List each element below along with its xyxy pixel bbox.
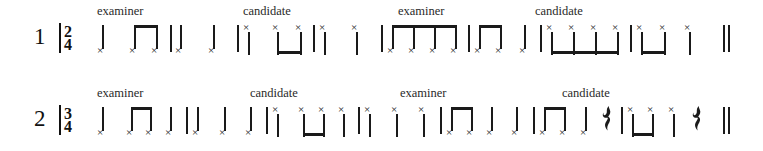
notehead-x-icon: × [495,45,501,56]
notehead-x-icon: × [126,127,132,138]
beam [277,51,302,54]
notehead-x-icon: × [519,45,525,56]
label-examiner-3: examiner [97,86,144,101]
time-signature-1: 2 4 [59,21,72,55]
notehead-x-icon: × [192,127,198,138]
barline [540,25,542,52]
barline [266,107,268,134]
beam [641,51,666,54]
label-examiner-4: examiner [400,86,447,101]
beam [134,25,158,28]
notehead-x-icon: × [486,127,492,138]
note-stem [248,32,250,55]
notehead-x-icon: × [559,127,565,138]
notehead-x-icon: × [298,104,304,115]
note-stem [369,114,371,137]
notehead-x-icon: × [647,104,653,115]
beam [479,25,502,28]
beam [303,133,325,136]
time-signature-beat-type: 4 [64,38,72,51]
notehead-x-icon: × [546,22,552,33]
label-examiner-2: examiner [398,4,445,19]
barline [440,107,442,134]
barline [468,25,470,52]
note-stem [673,114,675,137]
beam [392,25,457,28]
notehead-x-icon: × [295,22,301,33]
notehead-x-icon: × [175,45,181,56]
notehead-x-icon: × [446,127,452,138]
note-stem [396,114,398,137]
notehead-x-icon: × [590,22,596,33]
notehead-x-icon: × [627,104,633,115]
notehead-x-icon: × [466,127,472,138]
notehead-x-icon: × [318,104,324,115]
beam [131,107,152,110]
notehead-x-icon: × [351,22,357,33]
label-candidate-1: candidate [243,4,291,19]
time-signature-barline [59,105,61,135]
notehead-x-icon: × [659,22,665,33]
notehead-x-icon: × [208,45,214,56]
notehead-x-icon: × [418,104,424,115]
barline [358,107,360,134]
quarter-rest-icon [692,104,702,136]
barline [381,25,383,52]
time-signature-2: 3 4 [59,103,72,137]
beam [551,51,619,54]
barline [170,25,172,52]
quarter-rest-icon [602,104,612,136]
rhythm-exercise-sheet: 1 2 4 examiner candidate examiner candid… [0,0,763,151]
system-2: 2 3 4 examiner candidate examiner candid… [0,82,763,151]
barline [186,107,188,134]
note-stem [423,114,425,137]
barline [621,107,623,134]
notehead-x-icon: × [338,104,344,115]
label-candidate-3: candidate [250,86,298,101]
notehead-x-icon: × [319,22,325,33]
barline [313,25,315,52]
notehead-x-icon: × [568,22,574,33]
notehead-x-icon: × [668,104,674,115]
notehead-x-icon: × [391,104,397,115]
notehead-x-icon: × [450,45,456,56]
notehead-x-icon: × [474,45,480,56]
note-stem [356,32,358,55]
notehead-x-icon: × [429,45,435,56]
label-candidate-4: candidate [562,86,610,101]
barline [237,25,239,52]
notehead-x-icon: × [97,127,103,138]
notehead-x-icon: × [511,127,517,138]
notehead-x-icon: × [97,45,103,56]
notehead-x-icon: × [612,22,618,33]
label-examiner-1: examiner [97,4,144,19]
notehead-x-icon: × [636,22,642,33]
beam [451,107,473,110]
notehead-x-icon: × [539,127,545,138]
notehead-x-icon: × [165,127,171,138]
notehead-x-icon: × [243,22,249,33]
label-candidate-2: candidate [535,4,583,19]
notehead-x-icon: × [151,45,157,56]
note-stem [277,114,279,137]
time-signature-barline [59,23,61,53]
notehead-x-icon: × [580,127,586,138]
notehead-x-icon: × [245,127,251,138]
notehead-x-icon: × [272,22,278,33]
notehead-x-icon: × [129,45,135,56]
notehead-x-icon: × [408,45,414,56]
notehead-x-icon: × [272,104,278,115]
note-stem [689,32,691,55]
notehead-x-icon: × [387,45,393,56]
barline [630,25,632,52]
beam [632,133,654,136]
note-stem [343,114,345,137]
time-signature-beat-type: 4 [64,120,72,133]
notehead-x-icon: × [684,22,690,33]
beam [544,107,566,110]
notehead-x-icon: × [219,127,225,138]
note-stem [324,32,326,55]
system-number-1: 1 [34,24,46,50]
system-number-2: 2 [34,106,46,132]
notehead-x-icon: × [145,127,151,138]
